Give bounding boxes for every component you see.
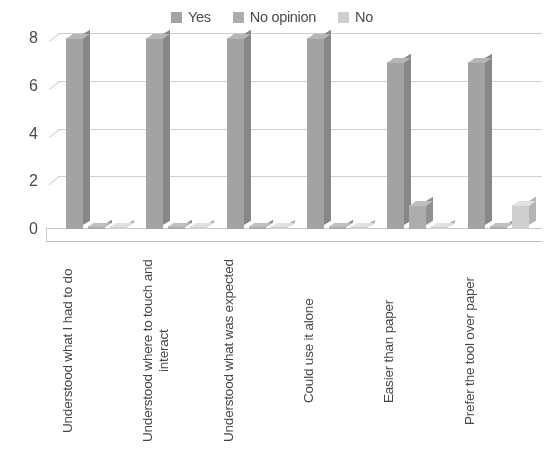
legend-item-yes: Yes bbox=[171, 9, 211, 25]
bar-side bbox=[83, 30, 90, 225]
x-axis-category-labels: Understood what I had to doUnderstood wh… bbox=[46, 244, 542, 460]
y-axis-tick-4: 4 bbox=[29, 125, 38, 143]
x-axis-label-3: Could use it alone bbox=[301, 244, 377, 458]
bar-no-opinion[interactable] bbox=[490, 226, 507, 229]
bar-face bbox=[227, 38, 244, 229]
bar-yes[interactable] bbox=[146, 38, 163, 229]
bar-column[interactable] bbox=[110, 226, 127, 229]
bar-top bbox=[490, 223, 513, 227]
bar-column[interactable] bbox=[249, 226, 266, 229]
y-axis: 02468 bbox=[0, 30, 46, 242]
bar-face bbox=[146, 38, 163, 229]
bar-column[interactable] bbox=[329, 226, 346, 229]
floor-front-edge bbox=[46, 241, 542, 242]
bar-group bbox=[227, 38, 293, 229]
bar-column[interactable] bbox=[307, 38, 324, 229]
bar-face bbox=[468, 62, 485, 229]
bar-face bbox=[307, 38, 324, 229]
legend-label-no-opinion: No opinion bbox=[250, 9, 316, 25]
y-axis-tick-0: 0 bbox=[29, 220, 38, 238]
x-axis-label-0: Understood what I had to do bbox=[60, 244, 136, 458]
floor-left-edge bbox=[46, 214, 61, 242]
bar-column[interactable] bbox=[271, 226, 288, 229]
bar-top bbox=[168, 223, 191, 227]
bar-column[interactable] bbox=[168, 226, 185, 229]
plot-canvas bbox=[46, 30, 542, 242]
bar-side bbox=[163, 30, 170, 225]
bar-yes[interactable] bbox=[307, 38, 324, 229]
gridline-top bbox=[58, 33, 542, 34]
x-axis-label-5: Prefer the tool over paper bbox=[462, 244, 538, 458]
legend-label-no: No bbox=[355, 9, 373, 25]
legend-label-yes: Yes bbox=[188, 9, 211, 25]
bar-face bbox=[387, 62, 404, 229]
bar-top bbox=[431, 223, 454, 227]
bar-yes[interactable] bbox=[387, 62, 404, 229]
bar-no[interactable] bbox=[271, 226, 288, 229]
bar-side bbox=[404, 54, 411, 225]
y-axis-tick-8: 8 bbox=[29, 29, 38, 47]
legend-swatch-icon-no-opinion bbox=[233, 12, 244, 23]
bar-column[interactable] bbox=[351, 226, 368, 229]
bar-top bbox=[351, 223, 374, 227]
chart-floor bbox=[46, 228, 542, 242]
bar-column[interactable] bbox=[490, 226, 507, 229]
bar-yes[interactable] bbox=[468, 62, 485, 229]
y-axis-tick-6: 6 bbox=[29, 77, 38, 95]
bar-face bbox=[512, 205, 529, 229]
bar-column[interactable] bbox=[409, 205, 426, 229]
legend-item-no: No bbox=[338, 9, 373, 25]
bar-column[interactable] bbox=[227, 38, 244, 229]
bar-yes[interactable] bbox=[227, 38, 244, 229]
chart-plot-area: 02468 bbox=[0, 30, 544, 242]
bar-group bbox=[66, 38, 132, 229]
bar-column[interactable] bbox=[88, 226, 105, 229]
bar-yes[interactable] bbox=[66, 38, 83, 229]
y-axis-tick-2: 2 bbox=[29, 172, 38, 190]
bar-no[interactable] bbox=[110, 226, 127, 229]
x-axis-label-4: Easier than paper bbox=[381, 244, 457, 458]
gridline-depth-4 bbox=[49, 129, 60, 138]
legend-swatch-icon-yes bbox=[171, 12, 182, 23]
bar-column[interactable] bbox=[387, 62, 404, 229]
x-axis-label-2: Understood what was expected bbox=[221, 244, 297, 458]
legend-swatch-icon-no bbox=[338, 12, 349, 23]
bar-top bbox=[329, 223, 352, 227]
gridline-depth-2 bbox=[49, 176, 60, 185]
bar-side bbox=[324, 30, 331, 225]
bar-top bbox=[110, 223, 133, 227]
bar-top bbox=[190, 223, 213, 227]
bar-side bbox=[244, 30, 251, 225]
bar-column[interactable] bbox=[190, 226, 207, 229]
chart-legend: Yes No opinion No bbox=[0, 4, 544, 30]
gridline-depth-6 bbox=[49, 81, 60, 90]
bar-no[interactable] bbox=[351, 226, 368, 229]
bar-column[interactable] bbox=[146, 38, 163, 229]
bar-face bbox=[66, 38, 83, 229]
bar-group bbox=[468, 62, 534, 229]
bar-side bbox=[485, 54, 492, 225]
bar-no-opinion[interactable] bbox=[249, 226, 266, 229]
bar-column[interactable] bbox=[512, 205, 529, 229]
bar-no-opinion[interactable] bbox=[329, 226, 346, 229]
bar-group bbox=[146, 38, 212, 229]
legend-item-no-opinion: No opinion bbox=[233, 9, 316, 25]
x-axis-label-1: Understood where to touch and interact bbox=[140, 244, 216, 458]
bar-column[interactable] bbox=[431, 226, 448, 229]
bar-no-opinion[interactable] bbox=[88, 226, 105, 229]
bar-face bbox=[409, 205, 426, 229]
bar-group bbox=[387, 62, 453, 229]
bar-top bbox=[271, 223, 294, 227]
bar-no[interactable] bbox=[512, 205, 529, 229]
bar-no-opinion[interactable] bbox=[168, 226, 185, 229]
bar-top bbox=[249, 223, 272, 227]
bar-column[interactable] bbox=[66, 38, 83, 229]
gridline-depth-8 bbox=[49, 33, 60, 42]
bar-top bbox=[88, 223, 111, 227]
bar-no-opinion[interactable] bbox=[409, 205, 426, 229]
bar-no[interactable] bbox=[431, 226, 448, 229]
bar-group bbox=[307, 38, 373, 229]
bar-no[interactable] bbox=[190, 226, 207, 229]
bar-column[interactable] bbox=[468, 62, 485, 229]
